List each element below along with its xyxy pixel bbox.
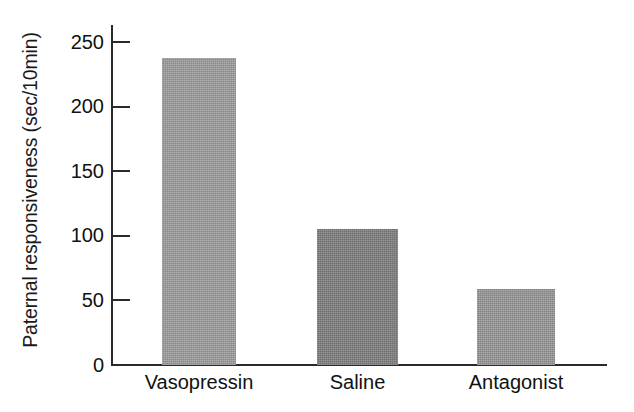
bar-vasopressin xyxy=(162,58,236,365)
bar-chart-figure: Paternal responsiveness (sec/10min) 2502… xyxy=(0,0,634,412)
bar-antagonist xyxy=(477,289,555,365)
bar-saline xyxy=(317,229,398,365)
plot-area xyxy=(0,0,634,412)
x-axis-label-antagonist: Antagonist xyxy=(406,371,626,394)
